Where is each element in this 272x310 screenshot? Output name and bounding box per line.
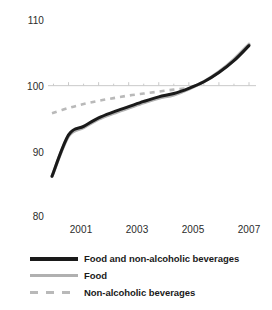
legend-swatch-solid-gray-icon bbox=[30, 270, 78, 282]
gridline-group bbox=[48, 82, 256, 86]
legend-label: Food bbox=[84, 270, 107, 281]
series-line-food-and-non-alcoholic-beverages bbox=[52, 46, 249, 177]
legend-swatch-solid-dark-icon bbox=[30, 253, 78, 265]
legend-label: Food and non-alcoholic beverages bbox=[84, 253, 239, 264]
legend-swatch-dashed-icon bbox=[30, 287, 78, 299]
plot-area bbox=[0, 0, 272, 240]
x-tick-marks bbox=[54, 82, 250, 86]
chart-legend: Food and non-alcoholic beverages Food No… bbox=[30, 250, 272, 301]
legend-item-non-alcoholic-beverages: Non-alcoholic beverages bbox=[30, 284, 272, 301]
series-group bbox=[52, 44, 249, 176]
chart-container: 110 100 90 80 2001 2003 2005 2007 Food a… bbox=[0, 0, 272, 310]
legend-item-food-and-non-alcoholic-beverages: Food and non-alcoholic beverages bbox=[30, 250, 272, 267]
legend-item-food: Food bbox=[30, 267, 272, 284]
legend-label: Non-alcoholic beverages bbox=[84, 287, 195, 298]
series-line-food bbox=[52, 44, 249, 176]
